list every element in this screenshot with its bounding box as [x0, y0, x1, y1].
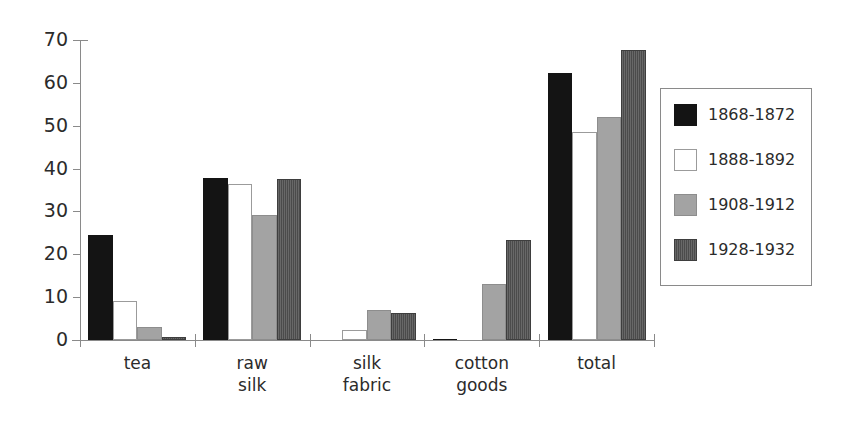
bar-group [310, 40, 425, 340]
bar [597, 117, 622, 340]
y-axis-tick-label: 0 [18, 330, 68, 349]
x-axis-category-label: tea [80, 352, 195, 374]
bar [228, 184, 253, 340]
x-axis-category-label: cottongoods [424, 352, 539, 396]
x-axis-category-label-line: total [539, 352, 654, 374]
legend-swatch-icon [674, 149, 697, 171]
bar [482, 284, 507, 340]
legend-label: 1868-1872 [708, 107, 795, 123]
bar [506, 240, 531, 340]
bar [621, 50, 646, 340]
y-axis-tick-label: 30 [18, 201, 68, 220]
bar [367, 310, 392, 340]
bar [113, 301, 138, 340]
y-axis-tick-label: 20 [18, 244, 68, 263]
legend-item[interactable]: 1888-1892 [674, 148, 795, 172]
bar-group [424, 40, 539, 340]
legend-label: 1888-1892 [708, 152, 795, 168]
bar [88, 235, 113, 340]
legend-label: 1908-1912 [708, 197, 795, 213]
bar-chart: 010203040506070 tearawsilksilkfabriccott… [0, 0, 856, 422]
x-axis-line [72, 340, 655, 341]
legend-swatch-icon [674, 239, 697, 261]
bar [137, 327, 162, 340]
bar [162, 337, 187, 340]
legend-label: 1928-1932 [708, 242, 795, 258]
bar [203, 178, 228, 340]
y-axis-tick-label: 40 [18, 159, 68, 178]
legend-swatch-icon [674, 104, 697, 126]
x-axis-category-label-line: silk [195, 374, 310, 396]
bar [391, 313, 416, 340]
y-axis-tick-label: 70 [18, 30, 68, 49]
bar [277, 179, 302, 340]
legend-swatch-icon [674, 194, 697, 216]
legend-item[interactable]: 1928-1932 [674, 238, 795, 262]
legend: 1868-18721888-18921908-19121928-1932 [660, 88, 812, 286]
x-axis-category-label: silkfabric [310, 352, 425, 396]
x-axis-category-label-line: cotton [424, 352, 539, 374]
x-axis-category-label: total [539, 352, 654, 374]
bar [433, 339, 458, 340]
x-axis-category-label-line: raw [195, 352, 310, 374]
bar-group [539, 40, 654, 340]
y-axis-tick-label: 10 [18, 287, 68, 306]
bar [572, 132, 597, 340]
x-axis-category-label-line: fabric [310, 374, 425, 396]
legend-item[interactable]: 1908-1912 [674, 193, 795, 217]
x-axis-tick [654, 334, 655, 347]
bar-group [80, 40, 195, 340]
x-axis-category-label-line: goods [424, 374, 539, 396]
plot-area [80, 40, 654, 340]
x-axis-category-label-line: silk [310, 352, 425, 374]
bar [252, 215, 277, 340]
bar [548, 73, 573, 340]
y-axis-tick-label: 50 [18, 116, 68, 135]
bar [342, 330, 367, 340]
bar-group [195, 40, 310, 340]
legend-item[interactable]: 1868-1872 [674, 103, 795, 127]
x-axis-category-label: rawsilk [195, 352, 310, 396]
x-axis-category-label-line: tea [80, 352, 195, 374]
y-axis-tick-label: 60 [18, 73, 68, 92]
